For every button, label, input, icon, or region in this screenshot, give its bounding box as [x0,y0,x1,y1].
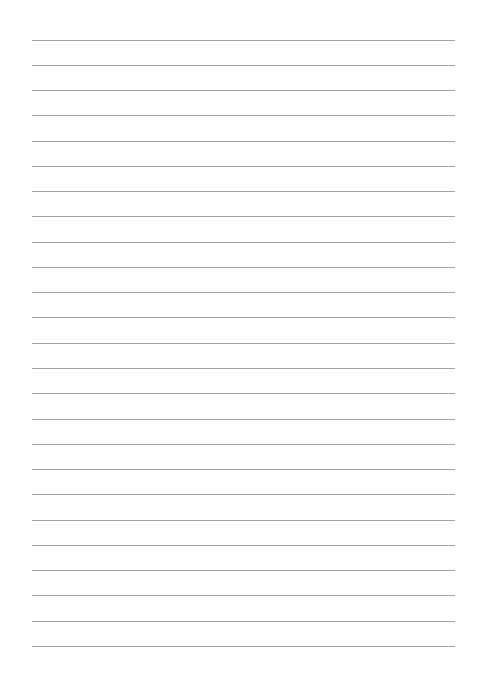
ruled-line [32,216,455,217]
ruled-line [32,242,455,243]
ruled-line [32,621,455,622]
lined-paper-sheet [0,0,480,690]
ruled-line [32,469,455,470]
ruled-line [32,191,455,192]
ruled-line [32,292,455,293]
ruled-line [32,90,455,91]
ruled-line [32,166,455,167]
ruled-line [32,40,455,41]
ruled-line [32,267,455,268]
ruled-line [32,317,455,318]
ruled-line [32,595,455,596]
ruled-line [32,115,455,116]
ruled-line [32,520,455,521]
ruled-line [32,141,455,142]
ruled-line [32,444,455,445]
ruled-line [32,393,455,394]
ruled-line [32,646,455,647]
ruled-line [32,368,455,369]
ruled-line [32,494,455,495]
ruled-line [32,343,455,344]
ruled-line [32,419,455,420]
ruled-line [32,570,455,571]
ruled-line [32,65,455,66]
ruled-line [32,545,455,546]
